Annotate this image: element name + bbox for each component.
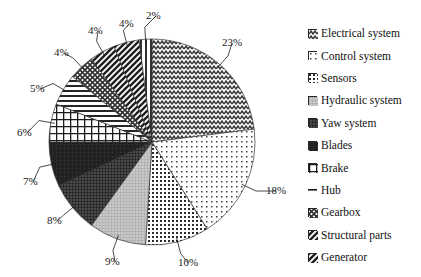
legend-item-label: Electrical system <box>321 27 400 39</box>
dense-dots-swatch <box>308 73 317 82</box>
legend-item-label: Gearbox <box>321 206 361 218</box>
legend-item-label: Control system <box>321 50 391 62</box>
legend-item[interactable]: Hub <box>308 179 421 201</box>
pie-chart-svg <box>0 0 300 277</box>
solid-dark-swatch <box>308 141 317 150</box>
legend-item[interactable]: Yaw system <box>308 112 421 134</box>
horizontal-lines-swatch <box>308 185 317 194</box>
pie-percentage-label: 4% <box>88 25 103 36</box>
sparse-dots-swatch <box>308 51 317 60</box>
diagonal-down-swatch <box>308 253 317 262</box>
legend-item-label: Structural parts <box>321 229 392 241</box>
pie-percentage-label: 10% <box>178 257 198 268</box>
legend-item-label: Sensors <box>321 72 357 84</box>
pie-percentage-label: 2% <box>146 10 161 21</box>
pie-percentage-label: 4% <box>54 47 69 58</box>
pie-percentage-label: 7% <box>23 176 38 187</box>
legend-item[interactable]: Sensors <box>308 67 421 89</box>
crosshatch-swatch <box>308 208 317 217</box>
pie-slice-group <box>49 39 255 245</box>
pie-percentage-label: 18% <box>266 185 286 196</box>
chart-legend: Electrical systemControl systemSensorsHy… <box>308 22 421 268</box>
checker-swatch <box>308 163 317 172</box>
legend-item[interactable]: Electrical system <box>308 22 421 44</box>
legend-item-label: Yaw system <box>321 117 376 129</box>
chart-plot-area: 23%18%10%9%8%7%6%5%4%4%4%2% <box>0 0 300 277</box>
legend-item[interactable]: Generator <box>308 246 421 268</box>
diagonal-up-swatch <box>308 230 317 239</box>
pie-percentage-label: 5% <box>30 83 45 94</box>
legend-item[interactable]: Blades <box>308 134 421 156</box>
legend-item[interactable]: Control system <box>308 44 421 66</box>
legend-item[interactable]: Hydraulic system <box>308 89 421 111</box>
pie-percentage-label: 4% <box>119 18 134 29</box>
dark-grid-swatch <box>308 118 317 127</box>
legend-item[interactable]: Brake <box>308 156 421 178</box>
zigzag-swatch <box>308 29 317 38</box>
legend-item[interactable]: Structural parts <box>308 224 421 246</box>
legend-item[interactable]: Gearbox <box>308 201 421 223</box>
legend-item-label: Brake <box>321 162 348 174</box>
pie-percentage-label: 9% <box>105 256 120 267</box>
pie-chart-figure: 23%18%10%9%8%7%6%5%4%4%4%2% Electrical s… <box>0 0 421 277</box>
legend-item-label: Blades <box>321 139 352 151</box>
pie-percentage-label: 23% <box>222 37 242 48</box>
pie-percentage-label: 8% <box>47 215 62 226</box>
pie-slice <box>152 39 254 142</box>
legend-item-label: Generator <box>321 251 367 263</box>
fine-grid-swatch <box>308 96 317 105</box>
pie-percentage-label: 6% <box>17 127 32 138</box>
legend-item-label: Hub <box>321 184 341 196</box>
legend-item-label: Hydraulic system <box>321 94 402 106</box>
